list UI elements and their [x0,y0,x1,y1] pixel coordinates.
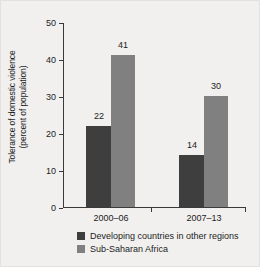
x-tick-separator [151,208,152,212]
x-axis-line [63,207,246,208]
x-tick-end [245,208,246,212]
bar-2007-13-developing [179,155,204,207]
y-axis-title-line1: Tolerance of domestic violence [7,50,17,163]
x-category-label-1: 2007–13 [186,213,221,223]
legend-swatch-icon-subsaharan [77,245,85,253]
legend-item-subsaharan: Sub-Saharan Africa [77,242,239,255]
bar-2007-13-subsaharan [204,96,228,207]
plot-area: 0 10 20 30 40 50 22 41 2000–06 [63,23,246,208]
y-tick-label-40: 40 [46,55,56,65]
y-axis-title: Tolerance of domestic violence (percent … [1,1,35,213]
bar-value-2000-06-subsaharan: 41 [118,40,128,50]
bar-2000-06-subsaharan [111,55,135,207]
x-category-label-0: 2000–06 [93,213,128,223]
y-tick-label-20: 20 [46,129,56,139]
legend-label-developing: Developing countries in other regions [90,231,239,241]
y-tick-label-50: 50 [46,18,56,28]
bar-value-2007-13-subsaharan: 30 [211,81,221,91]
y-tick-label-30: 30 [46,92,56,102]
y-axis-line [63,23,64,208]
legend-swatch-icon-developing [77,232,85,240]
bar-value-2000-06-developing: 22 [94,111,104,121]
y-axis-title-line2: (percent of population) [18,50,29,163]
legend-item-developing: Developing countries in other regions [77,229,239,242]
chart-figure: Tolerance of domestic violence (percent … [0,0,260,267]
chart-legend: Developing countries in other regions Su… [77,229,239,255]
bar-2000-06-developing [86,126,111,207]
y-tick-label-10: 10 [46,166,56,176]
y-tick-label-0: 0 [51,203,56,213]
legend-label-subsaharan: Sub-Saharan Africa [90,244,168,254]
bar-value-2007-13-developing: 14 [187,140,197,150]
